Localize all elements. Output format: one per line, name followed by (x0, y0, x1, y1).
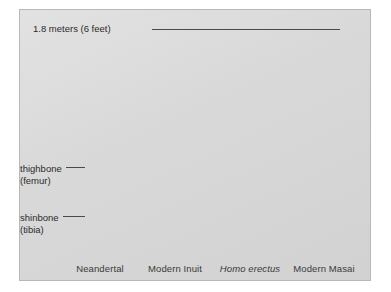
illustration-panel (19, 9, 371, 281)
panel-gradient (20, 10, 370, 280)
thighbone-label-line2: (femur) (20, 175, 51, 187)
shinbone-leader-line (63, 216, 85, 217)
thighbone-label-line1: thighbone (20, 163, 62, 175)
caption-modern-masai: Modern Masai (277, 263, 371, 274)
shinbone-label-line1: shinbone (20, 212, 59, 224)
thighbone-leader-line (66, 167, 85, 168)
scale-annotation-label: 1.8 meters (6 feet) (33, 23, 111, 35)
shinbone-label-line2: (tibia) (20, 224, 44, 236)
scale-leader-line (152, 29, 340, 30)
illustration-stage: 1.8 meters (6 feet) thighbone (femur) sh… (0, 0, 391, 292)
